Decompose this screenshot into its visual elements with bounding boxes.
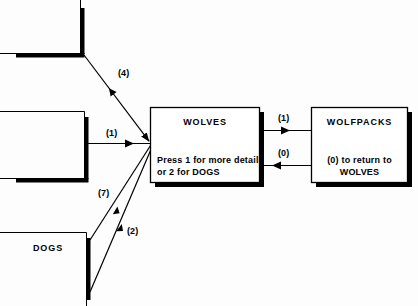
node-offscreen-middle [0, 112, 89, 183]
edge-0-label: (0) [278, 148, 289, 158]
edge-7-label: (7) [98, 188, 109, 198]
node-dogs-title: DOGS [18, 242, 78, 254]
node-wolves-title: WOLVES [150, 116, 260, 128]
edge-1-right-arrowhead [281, 127, 290, 135]
node-wolfpacks-body-line2: WOLVES [311, 166, 408, 179]
node-offscreen-top [0, 0, 85, 58]
node-wolves-body-line1: Press 1 for more detail [157, 154, 259, 167]
edge-1-left-arrowhead [125, 140, 134, 148]
edge-0-arrowhead [272, 162, 281, 170]
diagram-graphics [0, 0, 418, 306]
node-wolfpacks-title: WOLFPACKS [311, 116, 408, 128]
node-wolfpacks-body-line1: (0) to return to [311, 154, 408, 167]
edge-4-label: (4) [118, 68, 129, 78]
edge-1-left-label: (1) [106, 128, 117, 138]
diagram-canvas: DOGS WOLVES Press 1 for more detail or 2… [0, 0, 418, 306]
edge-1-right-label: (1) [278, 113, 289, 123]
edge-2-label: (2) [127, 226, 138, 236]
edge-7-arrowhead [113, 206, 120, 214]
edge-4-midpoint-arrowhead [109, 88, 117, 96]
edge-2-line [90, 147, 152, 292]
node-wolves-body-line2: or 2 for DOGS [157, 166, 220, 179]
